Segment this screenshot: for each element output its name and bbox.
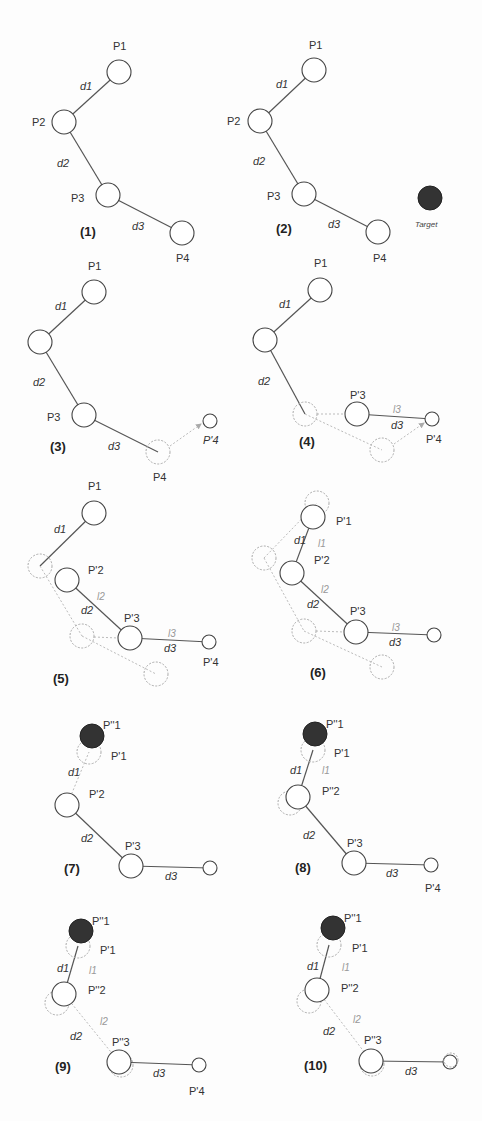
segment-d2 <box>67 580 130 638</box>
joint-p1 <box>82 501 106 525</box>
label-p4-prime: P'4 <box>426 433 442 445</box>
label-p1-prime: P'1 <box>336 515 352 527</box>
label-l1: l1 <box>342 962 350 973</box>
segment-d2 <box>64 122 108 195</box>
label-p1-prime: P'1 <box>334 747 350 759</box>
joint-p4-prime <box>202 635 216 649</box>
joint-p4-prime <box>203 414 217 428</box>
joint-p3-prime <box>118 626 142 650</box>
label-p1: P1 <box>88 480 101 492</box>
ghost-segment <box>64 994 119 1062</box>
label-d1: d1 <box>276 78 288 90</box>
joint-p3-prime <box>344 620 368 644</box>
label-p1-prime: P'1 <box>100 944 116 956</box>
label-d3: d3 <box>391 419 404 431</box>
panel-6: P'1 P'2 P'3 d1 d2 d3 l1 l2 l3 (6) <box>252 491 441 680</box>
label-p2-prime: P'2 <box>88 564 104 576</box>
label-d1: d1 <box>55 300 67 312</box>
label-d1: d1 <box>294 534 306 546</box>
joint-p3-double-prime <box>107 1050 131 1074</box>
label-p3-prime: P'3 <box>350 389 366 401</box>
label-l2: l2 <box>353 1014 361 1025</box>
joint-p2-prime <box>280 561 304 585</box>
label-p1-double-prime: P''1 <box>92 915 110 927</box>
label-d2: d2 <box>33 376 45 388</box>
joint-p4-prime <box>427 628 441 642</box>
label-p4-prime: P'4 <box>203 434 219 446</box>
label-p3-double-prime: P''3 <box>364 1034 382 1046</box>
target-joint-p1-double-prime <box>321 916 345 940</box>
label-p3-prime: P'3 <box>350 605 366 617</box>
ghost-segment <box>304 631 382 667</box>
label-p2-double-prime: P''2 <box>341 982 359 994</box>
joint-p3 <box>96 183 120 207</box>
label-p3: P3 <box>267 190 280 202</box>
joint-p3-prime <box>119 854 143 878</box>
step-label: (4) <box>299 434 315 449</box>
label-p1: P1 <box>88 260 101 272</box>
label-d1: d1 <box>57 962 69 974</box>
label-d2: d2 <box>307 598 319 610</box>
joint-p2-double-prime <box>305 978 329 1002</box>
segment-d2 <box>292 573 356 632</box>
joint-p4-prime <box>203 861 217 875</box>
label-p3-prime: P'3 <box>125 840 141 852</box>
label-d2: d2 <box>253 155 265 167</box>
label-p1: P1 <box>314 257 327 269</box>
label-p4: P4 <box>176 252 189 264</box>
panel-2: P1 P2 P3 P4 d1 d2 d3 Target (2) <box>227 39 442 264</box>
joint-p2 <box>52 110 76 134</box>
label-d3: d3 <box>153 1067 166 1079</box>
label-d1: d1 <box>68 766 80 778</box>
segment-d2 <box>67 805 131 866</box>
joint-p4-prime <box>424 858 438 872</box>
label-d3: d3 <box>132 220 145 232</box>
label-d1: d1 <box>54 523 66 535</box>
joint-p3-prime <box>342 851 366 875</box>
joint-p3 <box>292 182 316 206</box>
label-d3: d3 <box>328 218 341 230</box>
joint-p2-double-prime <box>52 982 76 1006</box>
label-p4: P4 <box>373 252 386 264</box>
label-p2-prime: P'2 <box>314 554 330 566</box>
joint-p1 <box>302 58 326 82</box>
joint-p1-prime <box>301 505 325 529</box>
label-l1: l1 <box>89 965 97 976</box>
label-l1: l1 <box>318 538 326 549</box>
segment-d2 <box>260 121 304 194</box>
target-joint-p1-double-prime <box>303 722 327 746</box>
label-d3: d3 <box>165 870 178 882</box>
label-p3-prime: P'3 <box>124 612 140 624</box>
label-target: Target <box>415 220 438 229</box>
joint-p3-prime <box>345 402 369 426</box>
ghost-segment <box>316 631 344 632</box>
label-d1: d1 <box>290 764 302 776</box>
joint-p4 <box>366 220 390 244</box>
label-d1: d1 <box>307 960 319 972</box>
panel-7: P''1 P'1 P'2 P'3 d1 d2 d3 (7) <box>55 719 217 882</box>
label-p2-double-prime: P''2 <box>88 984 106 996</box>
label-p1: P1 <box>309 39 322 51</box>
joint-p2-prime <box>55 568 79 592</box>
step-label: (6) <box>310 665 326 680</box>
panel-4: P1 P'3 P'4 d1 d2 d3 l3 (4) <box>253 257 442 462</box>
label-d2: d2 <box>70 1030 82 1042</box>
target-joint-p1-double-prime <box>69 919 93 943</box>
label-d1: d1 <box>80 80 92 92</box>
label-d2: d2 <box>303 829 315 841</box>
move-arrow <box>170 424 201 446</box>
fabrik-diagram: P1 P2 P3 P4 d1 d2 d3 (1) P1 P2 P3 P4 d1 … <box>0 0 482 1121</box>
label-d2: d2 <box>57 157 69 169</box>
label-p2: P2 <box>227 115 240 127</box>
joint-p1 <box>82 280 106 304</box>
joint-p4 <box>170 221 194 245</box>
joint-p3 <box>72 403 96 427</box>
label-d3: d3 <box>108 440 121 452</box>
joint-p4-prime <box>425 412 439 426</box>
step-label: (7) <box>64 861 80 876</box>
target-icon <box>418 186 442 210</box>
label-p1: P1 <box>113 40 126 52</box>
label-p1-prime: P'1 <box>352 942 368 954</box>
label-p1-double-prime: P''1 <box>326 718 344 730</box>
joint-p3-double-prime <box>359 1049 383 1073</box>
